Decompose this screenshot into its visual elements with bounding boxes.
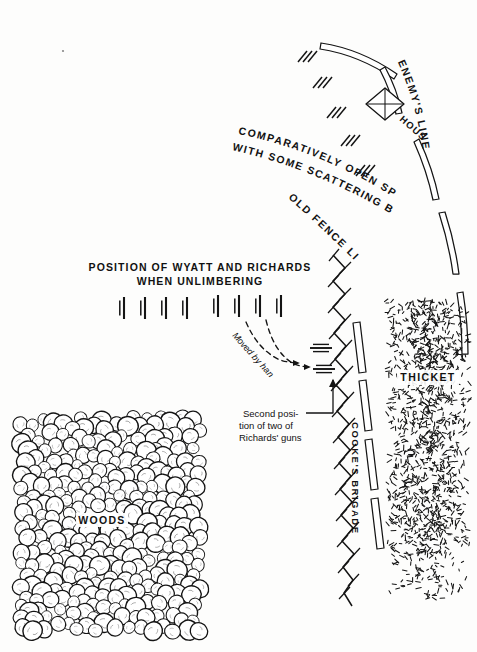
second-position-label-line1: Second posi-	[243, 408, 298, 419]
second-position-label-line2: tion of two of	[239, 420, 293, 431]
position-label-line1: POSITION OF WYATT AND RICHARDS	[89, 261, 312, 273]
battlefield-map: ENEMY'S LINE HOUSE COMPARATIVELY OPEN SP…	[0, 0, 477, 652]
woods-label: WOODS	[78, 514, 125, 526]
thicket-label: THICKET	[400, 371, 455, 383]
position-label-line2: WHEN UNLIMBERING	[137, 275, 264, 287]
second-position-label-line3: Richards' guns	[239, 432, 302, 443]
page-speck	[62, 50, 64, 52]
cookes-brigade-label: COOKE'S BRIGADE	[350, 422, 361, 535]
